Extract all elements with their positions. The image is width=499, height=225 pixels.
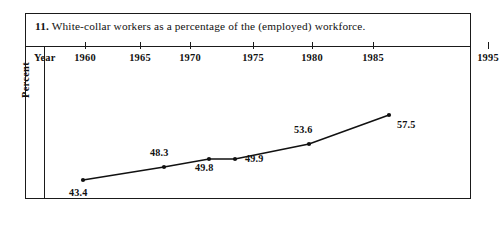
figure-caption-band: 11. White-collar workers as a percentage… [26, 14, 470, 46]
figure-caption: 11. White-collar workers as a percentage… [35, 20, 365, 32]
data-point-marker [162, 165, 166, 169]
x-axis-tick-mark [488, 42, 489, 49]
data-point-marker [207, 157, 211, 161]
data-point-value-label: 49.9 [245, 153, 264, 164]
figure-number: 11. [35, 20, 49, 32]
data-point-value-label: 49.8 [195, 162, 214, 173]
series-line [83, 115, 389, 180]
data-point-marker [81, 178, 85, 182]
figure-caption-text: White-collar workers as a percentage of … [52, 20, 366, 32]
data-point-value-label: 43.4 [69, 187, 88, 198]
figure-frame: 11. White-collar workers as a percentage… [25, 13, 471, 199]
data-point-marker [387, 113, 391, 117]
data-point-value-label: 57.5 [397, 119, 416, 130]
data-point-value-label: 53.6 [294, 124, 313, 135]
x-axis-tick-label: 1995 [477, 52, 499, 63]
data-point-marker [307, 142, 311, 146]
plot-area: Year Percent 196019651970197519801985199… [26, 46, 470, 198]
data-point-value-label: 48.3 [150, 147, 169, 158]
data-point-marker [233, 157, 237, 161]
